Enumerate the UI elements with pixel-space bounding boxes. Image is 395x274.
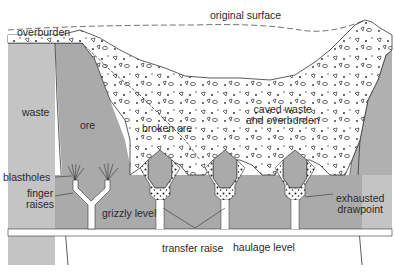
label-exhausted-drawpoint-line2: drawpoint bbox=[336, 204, 384, 215]
label-original-surface: original surface bbox=[210, 10, 281, 21]
drawpoints bbox=[140, 150, 315, 200]
label-transfer-raise: transfer raise bbox=[162, 243, 223, 254]
label-haulage-level: haulage level bbox=[233, 242, 295, 253]
label-caved-waste: caved waste and overburden bbox=[246, 104, 320, 126]
label-waste: waste bbox=[22, 107, 49, 118]
label-grizzly-level: grizzly level bbox=[102, 208, 156, 219]
label-overburden: overburden bbox=[17, 27, 70, 38]
label-exhausted-drawpoint: exhausted drawpoint bbox=[336, 193, 384, 215]
label-caved-waste-line2: and overburden bbox=[246, 115, 320, 126]
label-ore: ore bbox=[80, 120, 95, 131]
label-finger-raises: finger raises bbox=[26, 188, 54, 210]
block-caving-diagram bbox=[0, 0, 395, 274]
label-broken-ore: broken ore bbox=[142, 123, 192, 134]
label-blastholes: blastholes bbox=[3, 172, 50, 183]
haulage-level-drift bbox=[8, 229, 392, 236]
label-finger-raises-line2: raises bbox=[26, 199, 54, 210]
